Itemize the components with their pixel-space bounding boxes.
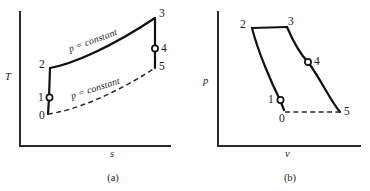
panel-b-state-label-1: 1 <box>268 93 274 105</box>
figure-root: 0 1 2 3 4 5 p = constant p = constant T … <box>0 0 370 191</box>
panel-a-state-label-4: 4 <box>161 42 167 54</box>
panel-b-x-axis-label: v <box>285 148 290 159</box>
panel-b-state-label-2: 2 <box>240 18 246 30</box>
panel-b-state-label-0: 0 <box>279 112 285 124</box>
panel-a-y-axis-label: T <box>5 71 12 82</box>
panel-b-process-3-5 <box>287 27 340 112</box>
panel-b-state-label-4: 4 <box>314 55 320 67</box>
panel-a-state-label-5: 5 <box>159 60 165 72</box>
panel-a-caption: (a) <box>107 172 119 184</box>
panel-a-state-label-3: 3 <box>159 7 165 19</box>
panel-b-state-marker-1 <box>277 97 283 103</box>
panel-a-state-marker-4 <box>152 45 158 51</box>
panel-a-axes <box>20 12 170 146</box>
panel-a-isobar-label-lower: p = constant <box>68 75 121 102</box>
panel-a-state-label-2: 2 <box>39 58 45 70</box>
panel-b-caption: (b) <box>284 172 297 184</box>
panel-a-state-label-1: 1 <box>38 91 44 103</box>
panel-a-state-marker-1 <box>46 94 52 100</box>
panel-a-x-axis-label: s <box>110 148 114 159</box>
panel-a-process-0-2 <box>48 68 50 114</box>
panel-a-group: 0 1 2 3 4 5 p = constant p = constant T … <box>5 7 170 184</box>
panel-b-y-axis-label: p <box>202 75 208 86</box>
panel-a-isobar-label-upper: p = constant <box>66 26 119 54</box>
panel-b-state-label-5: 5 <box>344 105 350 117</box>
panel-b-group: 0 1 2 3 4 5 p v (b) <box>202 12 360 184</box>
panel-b-process-2-3 <box>252 27 287 28</box>
thermodynamic-figure: 0 1 2 3 4 5 p = constant p = constant T … <box>0 0 370 191</box>
panel-a-state-label-0: 0 <box>39 109 45 121</box>
panel-b-state-marker-4 <box>305 59 311 65</box>
panel-b-state-label-3: 3 <box>288 15 294 27</box>
